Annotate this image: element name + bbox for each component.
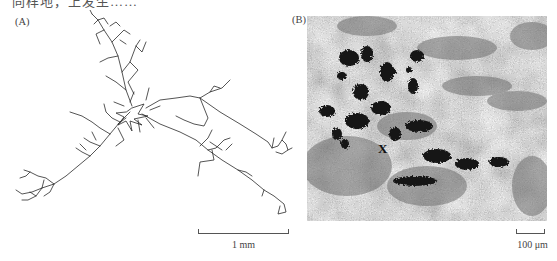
right-branch <box>146 80 292 154</box>
scale-bar-a-line <box>198 229 289 234</box>
lower-right-branch <box>142 114 286 214</box>
scale-bar-a: 1 mm <box>198 229 289 249</box>
panel-b-label: (B) <box>292 14 306 25</box>
panel-b-micrograph <box>307 16 547 221</box>
panel-b-x-marker: X <box>378 141 387 157</box>
scale-bar-a-label: 1 mm <box>198 239 289 250</box>
panel-a-neuron-tracing <box>0 10 300 220</box>
neuron-tracing-svg <box>0 10 300 220</box>
micrograph-svg <box>307 16 547 221</box>
soma-cluster <box>114 88 160 132</box>
scale-bar-b-line <box>516 229 545 234</box>
scale-bar-b-label: 100 μm <box>506 239 557 250</box>
scale-bar-b: 100 μm <box>516 229 545 249</box>
lower-left-branch <box>16 104 130 200</box>
cut-off-caption: 同样地，上发生…… <box>12 0 138 10</box>
upper-branch <box>90 10 146 106</box>
